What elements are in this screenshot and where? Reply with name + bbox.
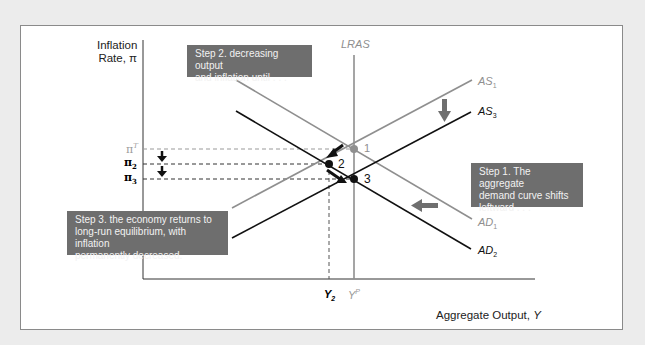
as1-label-text: AS: [478, 75, 493, 87]
point-3-label: 3: [364, 172, 371, 186]
y-axis-title-line2: Rate, π: [97, 52, 137, 65]
tick-pi-2-sub: 2: [132, 162, 137, 171]
tick-y2-sub: 2: [331, 295, 335, 302]
tick-yp-sup: P: [355, 288, 360, 295]
tick-pi-t-sup: T: [133, 142, 138, 150]
point-2-label: 2: [338, 157, 345, 171]
step-1-line-2: demand curve shifts: [479, 190, 577, 202]
ad1-label-sub: 1: [493, 223, 497, 230]
point-1-label: 1: [364, 142, 370, 154]
ad2-label: AD2: [478, 244, 497, 258]
tick-pi-3: π3: [124, 171, 137, 186]
pi-down-arrow-2-icon: [157, 166, 167, 177]
step-3-note: Step 3. the economy returns to long-run …: [67, 211, 228, 255]
step-3-line-3: permanently decreased.: [75, 250, 222, 262]
step-1-note: Step 1. The aggregate demand curve shift…: [471, 163, 583, 207]
ad-shift-left-arrow-icon: [411, 199, 438, 212]
ad1-label-text: AD: [478, 216, 493, 228]
tick-pi-3-sub: 3: [132, 177, 137, 186]
lras-label: LRAS: [341, 38, 370, 50]
step-2-note: Step 2. decreasing output and inflation …: [187, 45, 312, 77]
pi-down-arrow-1-icon: [157, 151, 167, 162]
point-2-marker: [325, 160, 333, 168]
step-3-line-2: long-run equilibrium, with inflation: [75, 226, 222, 250]
tick-pi-2-symbol: π: [124, 156, 132, 169]
x-axis-title: Aggregate Output, Y: [436, 309, 541, 322]
ad2-label-sub: 2: [493, 251, 497, 258]
arrow-2-to-3-icon: [327, 170, 347, 183]
as3-label: AS3: [478, 105, 497, 119]
step-1-line-3: leftward . . .: [479, 202, 577, 214]
as3-label-sub: 3: [493, 112, 497, 119]
step-1-line-1: Step 1. The aggregate: [479, 166, 577, 190]
step-2-line-1: Step 2. decreasing output: [195, 48, 306, 72]
as-shift-down-arrow-icon: [438, 99, 451, 122]
point-1-marker: [350, 145, 358, 153]
x-axis-title-text: Aggregate Output,: [436, 309, 533, 321]
tick-pi-2: π2: [124, 156, 137, 171]
tick-y2: Y2: [324, 288, 335, 302]
as1-label-sub: 1: [493, 82, 497, 89]
x-axis-title-var: Y: [533, 309, 541, 321]
y-axis-title-line1: Inflation: [97, 39, 137, 52]
as3-curve: [232, 112, 471, 238]
y-axis-title: Inflation Rate, π: [97, 39, 137, 65]
tick-pi-t: πT: [126, 142, 138, 156]
tick-pi-3-symbol: π: [124, 171, 132, 184]
ad2-label-text: AD: [478, 244, 493, 256]
ad1-label: AD1: [478, 216, 497, 230]
as3-label-text: AS: [478, 105, 493, 117]
step-3-line-1: Step 3. the economy returns to: [75, 214, 222, 226]
as1-label: AS1: [478, 75, 497, 89]
tick-yp: YP: [348, 288, 360, 301]
step-2-line-2: and inflation until . . .: [195, 72, 306, 84]
point-3-marker: [350, 175, 358, 183]
